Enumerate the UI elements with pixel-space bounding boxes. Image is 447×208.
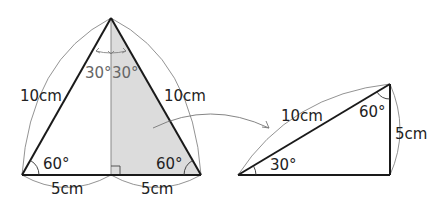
hypotenuse-edge — [238, 84, 390, 175]
label-vertical: 5cm — [395, 125, 427, 143]
transform-arrowhead — [262, 121, 269, 128]
angle-arc-60 — [377, 92, 390, 99]
angle-arc-30 — [254, 166, 257, 175]
label-angle-bottom-left: 60° — [43, 155, 70, 173]
triangle-diagram: 10cm 10cm 5cm 5cm 60° 60° 30° 30° 10cm 5… — [0, 0, 447, 208]
label-right-side: 10cm — [164, 87, 206, 105]
label-angle-top-left: 30° — [85, 64, 112, 82]
label-base-right: 5cm — [141, 180, 173, 198]
label-angle-60: 60° — [359, 103, 386, 121]
label-left-side: 10cm — [20, 87, 62, 105]
label-base-left: 5cm — [51, 180, 83, 198]
label-angle-top-right: 30° — [112, 64, 139, 82]
arc-arrow-left — [96, 48, 100, 53]
label-hypotenuse: 10cm — [281, 107, 323, 125]
label-angle-bottom-right: 60° — [156, 155, 183, 173]
label-angle-30: 30° — [270, 156, 297, 174]
angle-arc-bottom-left — [31, 161, 40, 176]
